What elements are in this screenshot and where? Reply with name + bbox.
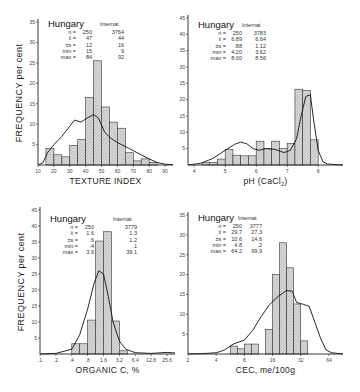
- histogram-bars: [46, 61, 157, 165]
- stat-internat-value: 99.9: [251, 248, 262, 254]
- stat-hungary-value: 4.8: [234, 242, 242, 248]
- y-tick-label: 10: [179, 311, 185, 317]
- histogram-bar: [272, 141, 280, 165]
- histogram-bar: [54, 155, 62, 165]
- x-axis-label: CEC, me/100g: [236, 365, 295, 375]
- y-axis-label: FREQUENCY per cent: [14, 44, 24, 143]
- x-tick-label: 12.8: [146, 357, 156, 363]
- x-tick-label: 8: [317, 168, 320, 174]
- x-tick-label: 4: [215, 357, 218, 363]
- stat-hungary-value: 8.00: [231, 55, 242, 61]
- legend-hungary-title: Hungary: [48, 18, 84, 29]
- stat-hungary-value: .4: [89, 243, 94, 249]
- stat-hungary-value: 1.6: [86, 230, 94, 236]
- x-tick-label: 10: [35, 168, 41, 174]
- x-axis-label: pH (CaCl2): [244, 176, 288, 187]
- soil-histograms-figure: 5101520253035102030405060708090TEXTURE I…: [0, 0, 360, 392]
- y-tick-label: 45: [31, 207, 37, 213]
- stat-internat-value: 3783: [254, 30, 266, 36]
- y-tick-label: 10: [179, 129, 185, 135]
- x-tick-label: .8: [86, 357, 90, 363]
- histogram-bars: [230, 243, 307, 354]
- histogram-bar: [244, 344, 251, 354]
- y-tick-label: 30: [179, 232, 185, 238]
- stat-internat-value: 27.3: [251, 229, 262, 235]
- histogram-bar: [109, 122, 117, 165]
- stat-internat-value: 6.64: [255, 36, 266, 42]
- y-tick-label: 25: [29, 60, 35, 66]
- x-tick-label: .1: [38, 357, 42, 363]
- histogram-bar: [119, 351, 127, 354]
- chart-panel-organic_c: 51015202530354045.1.2.4.81.63.26.412.825…: [16, 207, 175, 375]
- stat-internat-value: 1.12: [255, 43, 266, 49]
- stat-hungary-value: 250: [233, 223, 242, 229]
- stat-internat-value: 3.62: [255, 49, 266, 55]
- stat-label: ±s =: [215, 236, 226, 242]
- y-tick-label: 10: [31, 319, 37, 325]
- y-tick-label: 15: [179, 113, 185, 119]
- y-tick-label: 15: [179, 291, 185, 297]
- x-axis-label: ORGANIC C, %: [75, 365, 139, 375]
- stat-hungary-value: 64.2: [231, 248, 242, 254]
- legend-internat-title: Internat: [242, 22, 261, 28]
- histogram-bar: [256, 141, 264, 165]
- y-tick-label: 15: [31, 303, 37, 309]
- x-tick-label: 2: [187, 357, 190, 363]
- x-tick-label: 40: [83, 168, 89, 174]
- stat-hungary-value: 29.7: [231, 229, 242, 235]
- chart-panel-cec: 5101520253035248163264CEC, me/100gHungar…: [179, 212, 343, 375]
- histogram-bar: [46, 149, 54, 165]
- y-tick-label: 35: [31, 239, 37, 245]
- stat-internat-value: 92: [118, 54, 124, 60]
- histogram-bar: [266, 329, 273, 354]
- x-tick-label: 90: [162, 168, 168, 174]
- stat-internat-value: 3779: [125, 224, 137, 230]
- histogram-bar: [225, 150, 233, 165]
- stat-hungary-value: 4.20: [231, 49, 242, 55]
- stat-internat-value: 3764: [112, 29, 124, 35]
- stat-label: n =: [218, 223, 226, 229]
- histogram-bar: [233, 155, 241, 165]
- x-tick-label: 8: [243, 357, 246, 363]
- histogram-bar: [230, 346, 237, 354]
- stat-label: max =: [61, 54, 76, 60]
- stat-label: x̄ =: [69, 35, 77, 41]
- histogram-bar: [294, 304, 301, 354]
- histogram-bar: [86, 98, 94, 165]
- y-tick-label: 20: [179, 96, 185, 102]
- y-tick-label: 25: [179, 80, 185, 86]
- stat-hungary-value: 250: [83, 29, 92, 35]
- x-tick-label: 50: [99, 168, 105, 174]
- stat-label: max =: [211, 55, 226, 61]
- legend-internat-title: Internat: [100, 21, 119, 27]
- histogram-bar: [251, 344, 258, 354]
- y-tick-label: 5: [32, 141, 35, 147]
- stat-hungary-value: 6.89: [231, 36, 242, 42]
- stat-internat-value: 16: [118, 42, 124, 48]
- legend-internat-title: Internat: [113, 216, 132, 222]
- stat-hungary-value: 47: [86, 35, 92, 41]
- stat-label: ±s =: [67, 237, 78, 243]
- legend-hungary-title: Hungary: [198, 212, 234, 223]
- stat-label: min =: [212, 49, 226, 55]
- y-tick-label: 20: [179, 271, 185, 277]
- stat-internat-value: 1.2: [129, 237, 137, 243]
- y-tick-label: 35: [179, 47, 185, 53]
- histogram-bar: [287, 143, 295, 165]
- stat-internat-value: 39.1: [126, 249, 137, 255]
- stat-internat-value: 3777: [250, 223, 262, 229]
- y-tick-label: 25: [31, 271, 37, 277]
- x-axis-label: TEXTURE INDEX: [70, 176, 142, 186]
- histogram-bar: [303, 91, 311, 165]
- y-tick-label: 5: [34, 335, 37, 341]
- histogram-bar: [217, 159, 225, 165]
- y-tick-label: 30: [29, 39, 35, 45]
- histogram-bar: [301, 341, 308, 354]
- y-tick-label: 30: [179, 64, 185, 70]
- stat-hungary-value: 15: [86, 48, 92, 54]
- x-tick-label: 25.6: [162, 357, 172, 363]
- stat-label: min =: [212, 242, 226, 248]
- histogram-bar: [264, 149, 272, 165]
- y-tick-label: 5: [182, 331, 185, 337]
- histogram-bar: [96, 241, 104, 354]
